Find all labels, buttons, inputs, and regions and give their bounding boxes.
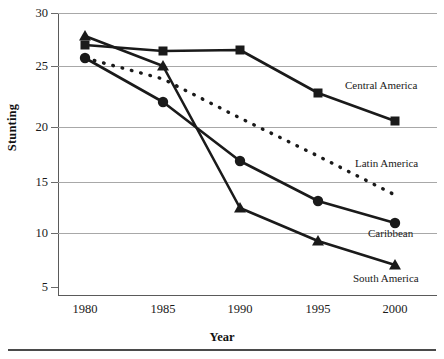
gridline-30 (58, 13, 437, 14)
y-tick-mark-15 (51, 182, 58, 183)
series-label-central-america: Central America (345, 80, 417, 91)
gridline-15 (58, 182, 437, 183)
y-tick-mark-30 (51, 13, 58, 14)
series-label-caribbean: Caribbean (368, 228, 413, 239)
y-tick-mark-20 (51, 127, 58, 128)
y-tick-label-25: 25 (4, 60, 48, 73)
y-tick-label-10: 10 (4, 227, 48, 240)
x-tick-label-1990: 1990 (210, 303, 270, 316)
plot-area (58, 13, 437, 295)
y-tick-mark-5 (51, 287, 58, 288)
series-label-latin-america: Latin America (355, 158, 418, 169)
x-axis-line (58, 295, 437, 296)
y-tick-label-20: 20 (4, 121, 48, 134)
x-tick-label-2000: 2000 (365, 303, 425, 316)
series-label-south-america: South America (353, 273, 419, 284)
y-tick-label-15: 15 (4, 176, 48, 189)
y-tick-mark-25 (51, 66, 58, 67)
x-axis-title: Year (0, 330, 444, 345)
gridline-20 (58, 127, 437, 128)
x-tick-label-1995: 1995 (288, 303, 348, 316)
y-tick-mark-10 (51, 233, 58, 234)
bottom-divider (8, 349, 436, 351)
chart-figure: Stunting 30 25 20 15 10 5 (0, 0, 444, 359)
x-tick-label-1980: 1980 (55, 303, 115, 316)
y-tick-label-30: 30 (4, 7, 48, 20)
x-tick-label-1985: 1985 (133, 303, 193, 316)
y-tick-label-5: 5 (4, 281, 48, 294)
gridline-25 (58, 66, 437, 67)
